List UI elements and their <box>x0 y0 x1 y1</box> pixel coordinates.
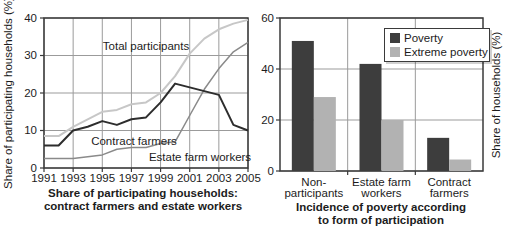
bar-poverty <box>292 41 314 171</box>
right-y-tick-label: 40 <box>248 63 274 76</box>
extreme-poverty-swatch-icon <box>390 47 400 57</box>
right-y-tick-label: 20 <box>248 114 274 127</box>
left-chart-caption: Share of participating households: contr… <box>23 187 263 212</box>
bar-extreme-poverty <box>382 120 404 171</box>
right-chart-caption-line1: Incidence of poverty according <box>261 201 501 214</box>
legend-label-extreme-poverty: Extreme poverty <box>404 46 488 59</box>
legend-item-extreme-poverty: Extreme poverty <box>390 45 488 59</box>
bar-extreme-poverty <box>314 97 336 171</box>
legend-item-poverty: Poverty <box>390 31 443 45</box>
legend-label-poverty: Poverty <box>404 32 443 45</box>
left-y-tick-label: 40 <box>11 12 37 25</box>
left-chart-caption-line2: contract farmers and estate workers <box>23 200 263 213</box>
right-y-axis-label: Share of households (%) <box>490 15 504 175</box>
series-label-contract-farmers: Contract farmers <box>74 135 194 148</box>
left-y-tick-label: 20 <box>11 87 37 100</box>
figure: Share of participating households (%) To… <box>0 0 507 238</box>
series-label-estate-farm-workers: Estate farm workers <box>130 151 270 164</box>
line-series-total-participants <box>44 20 248 136</box>
category-label: Contractfarmers <box>404 177 494 199</box>
bar-extreme-poverty <box>449 160 471 171</box>
left-y-tick-label: 30 <box>11 49 37 62</box>
category-label-line: farmers <box>404 188 494 199</box>
left-y-tick-label: 10 <box>11 124 37 137</box>
right-chart-caption-line2: to form of participation <box>261 214 501 227</box>
poverty-swatch-icon <box>390 33 400 43</box>
series-label-total-participants: Total participants <box>86 40 206 53</box>
legend: Poverty Extreme poverty <box>384 28 490 62</box>
category-label-line: Contract <box>404 177 494 188</box>
left-chart-caption-line1: Share of participating households: <box>23 187 263 200</box>
right-chart-caption: Incidence of poverty according to form o… <box>261 201 501 226</box>
bar-poverty <box>360 64 382 171</box>
bar-poverty <box>427 138 449 171</box>
right-y-tick-label: 60 <box>248 12 274 25</box>
